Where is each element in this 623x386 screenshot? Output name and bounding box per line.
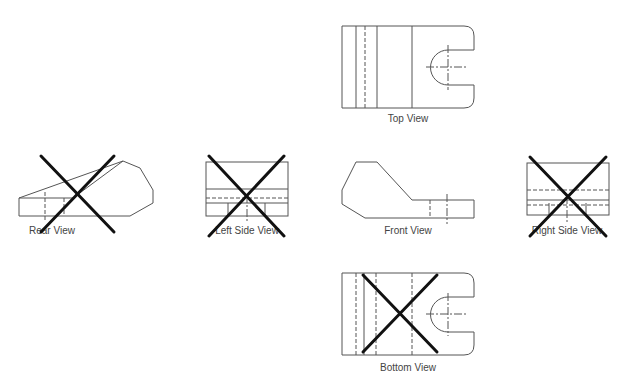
rear-view: Rear View	[19, 156, 153, 236]
top-view: Top View	[342, 26, 474, 124]
right-side-view: Right Side View	[527, 157, 609, 236]
front-view-outline	[342, 162, 474, 218]
rear-view-label: Rear View	[29, 225, 76, 236]
orthographic-drawing: Top View Rear View Left Side View Front …	[0, 0, 623, 386]
top-view-label: Top View	[388, 113, 429, 124]
right-side-view-label: Right Side View	[532, 225, 603, 236]
right-side-view-outline	[527, 163, 609, 215]
left-side-view: Left Side View	[206, 156, 288, 236]
front-view: Front View	[342, 162, 474, 236]
bottom-view-label: Bottom View	[380, 362, 437, 373]
front-view-label: Front View	[384, 225, 432, 236]
left-side-view-label: Left Side View	[215, 225, 280, 236]
bottom-view: Bottom View	[342, 273, 474, 373]
